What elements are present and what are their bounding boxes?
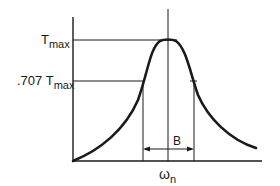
omega-n-label: ωn	[159, 167, 176, 181]
resonance-curve	[73, 40, 256, 162]
t707-label: .707 Tmax	[17, 74, 74, 87]
resonance-diagram	[0, 0, 280, 186]
tmax-label: Tmax	[41, 33, 70, 46]
bandwidth-label: B	[173, 135, 181, 147]
